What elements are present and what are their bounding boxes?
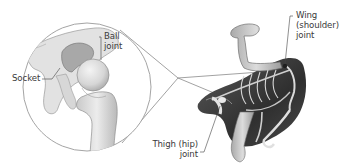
thigh-hip-joint-label: Thigh (hip) joint: [142, 139, 198, 159]
bird-body: [198, 24, 306, 162]
diagram-canvas: Ball joint Socket Wing (shoulder) joint …: [0, 0, 352, 168]
ball-joint-label-line2: joint: [104, 41, 122, 51]
wing-joint-label-line2: (shoulder): [296, 20, 339, 30]
wing-joint-label-line1: Wing: [296, 10, 339, 20]
thigh-joint-label-line2: joint: [142, 149, 198, 159]
wing-joint-label-line3: joint: [296, 30, 339, 40]
ball-joint-label-line1: Ball: [104, 31, 122, 41]
socket-label: Socket: [12, 73, 40, 83]
wing-joint-leader: [285, 16, 293, 64]
wing-shoulder-joint-label: Wing (shoulder) joint: [296, 10, 339, 40]
ball-joint-label: Ball joint: [104, 31, 122, 51]
thigh-joint-label-line1: Thigh (hip): [142, 139, 198, 149]
hip-joint-inset: [23, 23, 151, 160]
